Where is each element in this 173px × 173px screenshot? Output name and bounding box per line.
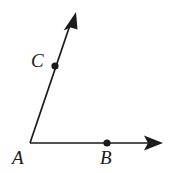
point-label-c: C (31, 51, 44, 70)
point-label-a: A (12, 148, 24, 167)
ray-ac-arrowhead (64, 12, 78, 31)
point-b-dot (103, 139, 110, 146)
ray-ab (30, 136, 163, 151)
angle-diagram-svg (0, 0, 173, 173)
point-label-b: B (100, 148, 112, 167)
geometry-figure: A B C (0, 0, 173, 173)
ray-ac-line (30, 25, 70, 143)
point-c-dot (51, 62, 58, 69)
ray-ac (30, 12, 78, 143)
